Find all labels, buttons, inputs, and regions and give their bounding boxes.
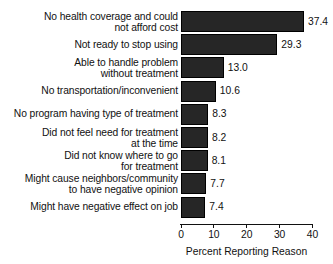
x-axis-tick bbox=[246, 224, 247, 228]
bar-value-label: 8.2 bbox=[212, 132, 226, 144]
x-axis-tick bbox=[312, 224, 313, 228]
bar bbox=[181, 81, 216, 102]
bar-value-label: 8.1 bbox=[212, 155, 226, 167]
bar-row: No transportation/inconvenient10.6 bbox=[0, 81, 333, 102]
category-label: Might have negative effect on job bbox=[2, 201, 178, 212]
bar bbox=[181, 57, 224, 78]
bar-row: No program having type of treatment8.3 bbox=[0, 104, 333, 125]
bar-value-label: 10.6 bbox=[220, 85, 240, 97]
bar bbox=[181, 34, 277, 55]
category-label: Not ready to stop using bbox=[2, 39, 178, 50]
bar-row: Not ready to stop using29.3 bbox=[0, 34, 333, 55]
bar-value-label: 7.7 bbox=[210, 178, 224, 190]
category-label: No health coverage and could not afford … bbox=[2, 11, 178, 33]
x-axis-tick bbox=[279, 224, 280, 228]
bar-value-label: 7.4 bbox=[209, 201, 223, 213]
x-axis-tick-label: 40 bbox=[293, 229, 333, 241]
bar-value-label: 8.3 bbox=[212, 108, 226, 120]
bar-row: No health coverage and could not afford … bbox=[0, 11, 333, 32]
bar bbox=[181, 173, 206, 194]
category-label: Did not feel need for treatment at the t… bbox=[2, 127, 178, 149]
bar bbox=[181, 197, 205, 218]
category-label: Might cause neighbors/community to have … bbox=[2, 173, 178, 195]
bar bbox=[181, 127, 208, 148]
bar bbox=[181, 150, 208, 171]
bar bbox=[181, 104, 208, 125]
bar-row: Might cause neighbors/community to have … bbox=[0, 173, 333, 194]
category-label: Able to handle problem without treatment bbox=[2, 57, 178, 79]
bar-row: Did not feel need for treatment at the t… bbox=[0, 127, 333, 148]
x-axis-tick bbox=[181, 224, 182, 228]
category-label: No transportation/inconvenient bbox=[2, 85, 178, 96]
bar-value-label: 37.4 bbox=[308, 16, 328, 28]
bar-row: Might have negative effect on job7.4 bbox=[0, 197, 333, 218]
category-label: No program having type of treatment bbox=[2, 108, 178, 119]
bar-value-label: 29.3 bbox=[281, 39, 301, 51]
x-axis-tick bbox=[213, 224, 214, 228]
category-label: Did not know where to go for treatment bbox=[2, 150, 178, 172]
bar bbox=[181, 11, 304, 32]
bar-row: Did not know where to go for treatment8.… bbox=[0, 150, 333, 171]
x-axis-title: Percent Reporting Reason bbox=[180, 246, 313, 258]
bar-row: Able to handle problem without treatment… bbox=[0, 57, 333, 78]
bar-chart: No health coverage and could not afford … bbox=[0, 0, 333, 264]
bar-value-label: 13.0 bbox=[228, 62, 248, 74]
